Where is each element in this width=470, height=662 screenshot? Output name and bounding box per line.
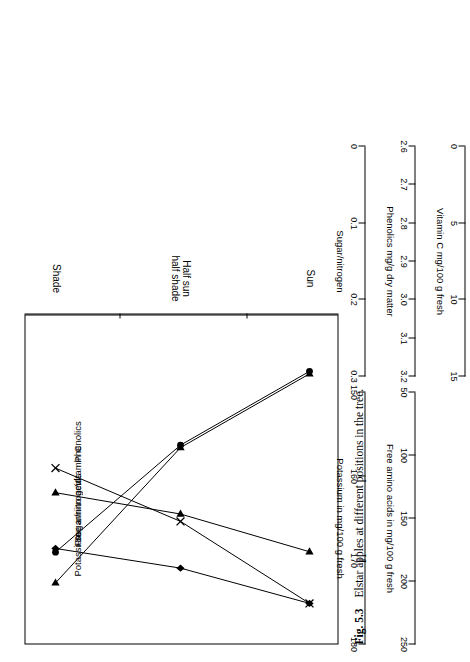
series-line — [55, 468, 309, 603]
value-axis-tick-label: 15 — [448, 362, 458, 390]
series-label: Sugar/nitrogen — [71, 480, 82, 542]
value-axis-title: Phenolics mg/g dry matter — [384, 146, 395, 376]
value-axis-tick-label: 3.1 — [398, 324, 408, 352]
value-axis-tick-label: 0 — [448, 132, 458, 160]
value-axis-title: Vitamin C mg/100 g fresh — [434, 146, 445, 376]
value-axis-tick — [458, 145, 465, 146]
value-axis-title: Potassium in mg/100 g fresh — [334, 392, 345, 644]
value-axis-tick — [458, 222, 465, 223]
value-axis-tick-label: 0.1 — [348, 209, 358, 237]
value-axis-tick — [358, 222, 365, 223]
value-axis-tick — [408, 260, 415, 261]
value-axis-title: Free amino acids in mg/100 g fresh — [384, 392, 395, 644]
value-axis-tick — [458, 375, 465, 376]
value-axis-tick — [408, 222, 415, 223]
value-axis-tick — [408, 183, 415, 184]
value-axis-tick-label: 2.7 — [398, 170, 408, 198]
category-label-line1: Half sun — [180, 252, 191, 304]
value-axis-tick — [408, 580, 415, 581]
value-axis-tick-label: 3.0 — [398, 285, 408, 313]
caption-text: Elstar apples at different positions in … — [352, 388, 364, 597]
value-axis-tick — [408, 517, 415, 518]
value-axis-tick-label: 2.9 — [398, 247, 408, 275]
value-axis-tick-label: 2.6 — [398, 132, 408, 160]
value-axis-tick — [408, 337, 415, 338]
series-label: Vitamin C — [71, 445, 82, 486]
value-axis-vitamin_c: 151050Vitamin C mg/100 g fresh — [448, 146, 470, 376]
value-axis-tick-label: 100 — [398, 441, 408, 469]
value-axis-title: Sugar/nitrogen — [334, 146, 345, 376]
category-axis: SunHalf sunhalf shadeShade — [24, 312, 338, 314]
value-axis-tick — [408, 643, 415, 644]
value-axis-tick-label: 5 — [448, 209, 458, 237]
category-tick — [119, 313, 120, 318]
category-label: Shade — [50, 252, 61, 304]
value-axis-tick — [458, 298, 465, 299]
value-axis-tick — [408, 454, 415, 455]
category-label-line1: Shade — [50, 252, 61, 304]
value-axis-tick-label: 250 — [398, 630, 408, 658]
value-axis-tick-label: 150 — [398, 504, 408, 532]
value-axis-tick — [408, 298, 415, 299]
value-axis-tick — [358, 145, 365, 146]
category-label-line1: Sun — [304, 252, 315, 304]
value-axis-tick-label: 2.8 — [398, 209, 408, 237]
value-axis-tick — [408, 391, 415, 392]
value-axis-line — [464, 146, 465, 376]
category-label: Sun — [304, 252, 315, 304]
series-line — [55, 373, 309, 582]
series-lines-svg — [23, 315, 337, 645]
figure-number: Fig. 5.3 — [352, 608, 364, 644]
value-axis-tick-label: 0.2 — [348, 285, 358, 313]
value-axis-tick — [358, 298, 365, 299]
value-axis-tick-label: 0 — [348, 132, 358, 160]
category-label: Half sunhalf shade — [169, 252, 191, 304]
series-line — [55, 371, 309, 552]
value-axis-phenolics: 3.23.13.02.92.82.72.6Phenolics mg/g dry … — [398, 146, 432, 376]
figure-caption: Fig. 5.3 Elstar apples at different posi… — [352, 314, 364, 644]
value-axis-free_amino_acids: 25020015010050Free amino acids in mg/100… — [398, 392, 432, 644]
plot-area: PotassiumFree amino acidsSugar/nitrogenP… — [24, 314, 338, 644]
value-axis-tick — [408, 145, 415, 146]
value-axis-tick-label: 200 — [398, 567, 408, 595]
category-tick — [246, 313, 247, 318]
value-axis-tick-label: 3.2 — [398, 362, 408, 390]
series-line — [55, 548, 309, 603]
plot-inner-rotated: PotassiumFree amino acidsSugar/nitrogenP… — [25, 315, 337, 643]
category-axis-line — [24, 313, 338, 314]
category-label-line2: half shade — [169, 252, 180, 304]
value-axis-tick-label: 10 — [448, 285, 458, 313]
value-axis-tick — [408, 375, 415, 376]
